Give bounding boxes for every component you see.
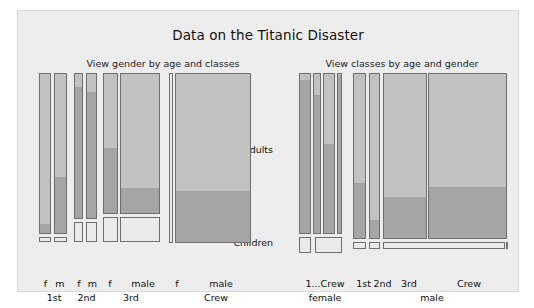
mosaic-left-cell	[169, 73, 173, 243]
tick-label-3rd: 3rd	[379, 278, 439, 289]
mosaic-left-cell	[86, 222, 97, 242]
subtitle-right: View classes by age and gender	[286, 58, 518, 69]
mosaic-left-cell	[103, 217, 118, 242]
cell-lower-segment	[300, 80, 310, 233]
mosaic-left-cell	[39, 73, 52, 234]
page-title: Data on the Titanic Disaster	[18, 27, 518, 43]
mosaic-chart-gender-by-age-and-classes	[38, 73, 251, 278]
mosaic-right-cell	[353, 73, 366, 239]
mosaic-left-cell	[86, 73, 97, 219]
group-labels-left: 1st2nd3rdCrew	[38, 292, 251, 306]
mosaic-left-cell	[54, 73, 68, 234]
cell-lower-segment	[324, 144, 334, 233]
mosaic-right-cell	[299, 73, 311, 234]
group-labels-right: femalemale	[299, 292, 507, 306]
group-label-crew: Crew	[186, 292, 246, 303]
mosaic-right-cell	[428, 73, 507, 239]
mosaic-right-cell	[315, 237, 342, 253]
mosaic-right-cell	[313, 73, 321, 234]
cell-lower-segment	[104, 148, 117, 213]
mosaic-left-cell	[120, 73, 160, 214]
cell-lower-segment	[176, 191, 250, 242]
tick-labels-right: 1...Crew1st2nd3rdCrew	[299, 278, 507, 292]
mosaic-left-cell	[39, 237, 52, 242]
mosaic-left-cell	[120, 217, 160, 242]
mosaic-right-cell	[369, 242, 380, 249]
cell-lower-segment	[87, 92, 96, 218]
mosaic-chart-classes-by-age-and-gender	[299, 73, 507, 278]
cell-lower-segment	[338, 75, 341, 233]
screenshot-root: Data on the Titanic Disaster View gender…	[0, 0, 534, 308]
mosaic-right-cell	[323, 73, 335, 234]
mosaic-right-cell	[383, 242, 505, 249]
cell-lower-segment	[121, 188, 159, 213]
mosaic-right-cell	[383, 73, 427, 239]
cell-lower-segment	[429, 187, 506, 238]
cell-lower-segment	[354, 183, 365, 238]
subtitle-left: View gender by age and classes	[38, 58, 288, 69]
mosaic-left-cell	[74, 73, 83, 219]
cell-lower-segment	[370, 220, 379, 238]
mosaic-right-cell	[369, 73, 380, 239]
tick-label-crew: Crew	[439, 278, 499, 289]
mosaic-right-cell	[353, 242, 366, 249]
group-label-3rd: 3rd	[101, 292, 161, 303]
mosaic-left-cell	[103, 73, 118, 214]
cell-lower-segment	[40, 224, 51, 233]
mosaic-right-cell	[337, 73, 342, 234]
mosaic-right-cell	[506, 242, 508, 249]
mosaic-left-cell	[54, 237, 68, 242]
cell-lower-segment	[75, 87, 82, 218]
tick-labels-left: fmfmfmalefmale	[38, 278, 251, 292]
mosaic-left-cell	[175, 73, 251, 243]
mosaic-right-cell	[299, 237, 311, 253]
cell-lower-segment	[314, 95, 320, 233]
chart-panel: Data on the Titanic Disaster View gender…	[17, 10, 519, 292]
cell-lower-segment	[55, 177, 67, 233]
group-label-male: male	[402, 292, 462, 303]
tick-label-male: male	[191, 278, 251, 289]
group-label-female: female	[295, 292, 355, 303]
cell-lower-segment	[384, 197, 426, 238]
mosaic-left-cell	[74, 222, 83, 242]
